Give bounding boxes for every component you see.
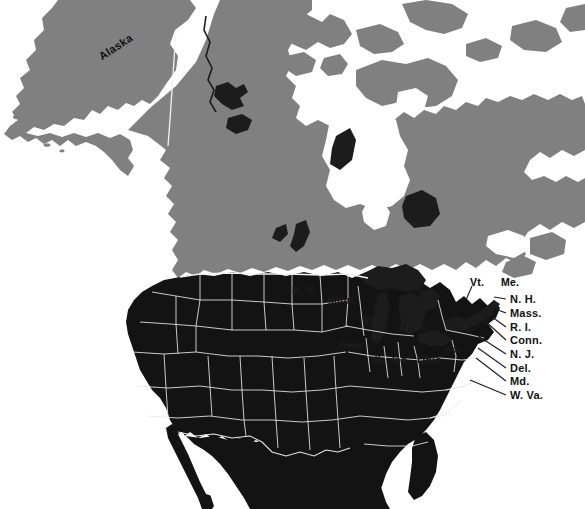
- map-label-wisconsin: Wis.: [362, 315, 384, 326]
- map-label-new-york: N. Y.: [452, 322, 475, 333]
- aleutian-island: [44, 143, 51, 147]
- map-label-iowa: Iowa: [339, 340, 363, 351]
- map-label-illinois: Ill.: [372, 355, 383, 365]
- aleutian-island: [13, 115, 23, 120]
- map-callout-delaware: Del.: [510, 363, 531, 374]
- map-callout-new-hampshire: N. H.: [510, 294, 536, 305]
- map-canvas: [0, 0, 585, 509]
- map-callout-rhode-island: R. I.: [510, 322, 531, 333]
- map-label-minnesota: Minn.: [328, 295, 356, 306]
- map-callout-massachusetts: Mass.: [510, 308, 542, 319]
- aleutian-island: [59, 150, 64, 153]
- map-label-ohio: Ohio: [417, 355, 442, 366]
- map-label-maine: Me.: [501, 277, 519, 288]
- north-america-map: Alaska N. D. Minn. Wis. Mich. Iowa Ill. …: [0, 0, 585, 509]
- map-callout-west-virginia: W. Va.: [510, 390, 543, 401]
- map-label-north-dakota: N. D.: [292, 285, 317, 296]
- map-callout-new-jersey: N. J.: [510, 349, 534, 360]
- map-callout-connecticut: Conn.: [510, 335, 542, 346]
- map-label-vermont: Vt.: [470, 277, 484, 288]
- map-callout-maryland: Md.: [510, 376, 530, 387]
- map-label-indiana: Ind.: [392, 355, 410, 365]
